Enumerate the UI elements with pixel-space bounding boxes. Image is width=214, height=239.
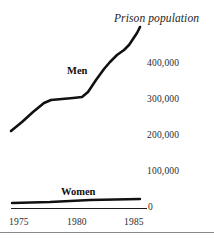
y-axis-tick-300000: 300,000 [147,95,179,105]
women-series-line [12,199,140,203]
y-axis-tick-400000: 400,000 [147,59,179,69]
chart-plot-area [0,0,214,239]
x-axis-tick-1980: 1980 [67,218,87,228]
series-label-men: Men [67,66,87,77]
x-axis-tick-1985: 1985 [124,218,144,228]
chart-title: Prison population [114,13,199,25]
y-axis-tick-200000: 200,000 [147,131,179,141]
y-axis-tick-0: 0 [148,203,153,213]
prison-population-figure: Prison population Men Women 400,000 300,… [0,0,214,239]
x-axis-tick-1975: 1975 [9,218,29,228]
men-series-line [11,27,140,131]
y-axis-tick-100000: 100,000 [147,167,179,177]
series-label-women: Women [61,187,95,198]
footer-divider [0,232,214,233]
